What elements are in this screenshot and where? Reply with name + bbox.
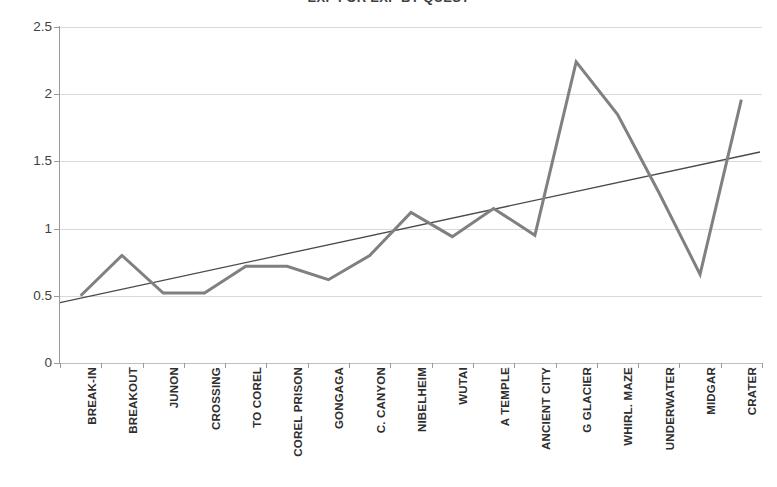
x-axis-category-label: G GLACIER	[581, 367, 593, 433]
y-axis-tick-mark	[54, 94, 60, 95]
x-axis-tick-mark	[266, 363, 267, 368]
gridline	[60, 229, 762, 230]
x-axis-category-label: COREL PRISON	[292, 367, 304, 457]
x-axis-category-label: GONGAGA	[333, 367, 345, 429]
x-axis-tick-mark	[721, 363, 722, 368]
x-axis-tick-mark	[762, 363, 763, 368]
x-axis-tick-mark	[308, 363, 309, 368]
x-axis-category-labels: BREAK-INBREAKOUTJUNONCROSSINGTO CORELCOR…	[0, 367, 777, 487]
x-axis-category-label: TO COREL	[251, 367, 263, 428]
x-axis-category-label: CRATER	[746, 367, 758, 415]
x-axis-category-label-wrapper: GONGAGA	[333, 367, 345, 429]
x-axis-tick-mark	[514, 363, 515, 368]
x-axis-category-label-wrapper: A TEMPLE	[499, 367, 511, 426]
x-axis-category-label-wrapper: UNDERWATER	[664, 367, 676, 450]
gridline	[60, 161, 762, 162]
x-axis-category-label-wrapper: G GLACIER	[581, 367, 593, 433]
x-axis-tick-mark	[432, 363, 433, 368]
x-axis-tick-mark	[60, 363, 61, 368]
y-axis-tick-mark	[54, 161, 60, 162]
x-axis-tick-mark	[473, 363, 474, 368]
chart-title: EXP FOR EXP BY QUEST	[0, 0, 777, 5]
gridline	[60, 94, 762, 95]
x-axis-category-label-wrapper: ANCIENT CITY	[540, 367, 552, 450]
x-axis-tick-mark	[143, 363, 144, 368]
y-axis-tick-mark	[54, 27, 60, 28]
x-axis-tick-mark	[349, 363, 350, 368]
x-axis-category-label-wrapper: C. CANYON	[375, 367, 387, 433]
gridline	[60, 296, 762, 297]
x-axis-tick-mark	[390, 363, 391, 368]
y-axis-tick-label: 1	[6, 221, 52, 236]
y-axis-tick-label: 0.5	[6, 288, 52, 303]
x-axis-category-label-wrapper: JUNON	[168, 367, 180, 408]
x-axis-category-label: C. CANYON	[375, 367, 387, 433]
y-axis-tick-mark	[54, 296, 60, 297]
y-axis-tick-label: 1.5	[6, 153, 52, 168]
y-axis-tick-labels: 00.511.522.5	[0, 27, 52, 363]
x-axis-category-label-wrapper: NIBELHEIM	[416, 367, 428, 432]
gridline	[60, 27, 762, 28]
x-axis-category-label: MIDGAR	[705, 367, 717, 415]
x-axis-category-label: UNDERWATER	[664, 367, 676, 450]
y-axis-tick-label: 2	[6, 86, 52, 101]
x-axis-tick-mark	[679, 363, 680, 368]
x-axis-tick-mark	[597, 363, 598, 368]
x-axis-category-label: BREAKOUT	[127, 367, 139, 434]
x-axis-category-label-wrapper: MIDGAR	[705, 367, 717, 415]
x-axis-category-label-wrapper: CRATER	[746, 367, 758, 415]
x-axis-category-label: A TEMPLE	[499, 367, 511, 426]
x-axis-category-label-wrapper: BREAK-IN	[86, 367, 98, 425]
x-axis-category-label: CROSSING	[210, 367, 222, 430]
plot-area	[60, 27, 762, 363]
x-axis-tick-mark	[556, 363, 557, 368]
x-axis-category-label: ANCIENT CITY	[540, 367, 552, 450]
x-axis-category-label-wrapper: WHIRL. MAZE	[622, 367, 634, 446]
x-axis-category-label: WHIRL. MAZE	[622, 367, 634, 446]
x-axis-tick-mark	[638, 363, 639, 368]
x-axis-category-label-wrapper: BREAKOUT	[127, 367, 139, 434]
gridline	[60, 363, 762, 364]
x-axis-category-label-wrapper: CROSSING	[210, 367, 222, 430]
x-axis-category-label-wrapper: TO COREL	[251, 367, 263, 428]
x-axis-category-label: WUTAI	[457, 367, 469, 405]
y-axis-tick-mark	[54, 229, 60, 230]
x-axis-tick-mark	[225, 363, 226, 368]
x-axis-category-label-wrapper: COREL PRISON	[292, 367, 304, 457]
x-axis-tick-mark	[184, 363, 185, 368]
chart-container: EXP FOR EXP BY QUEST 00.511.522.5 BREAK-…	[0, 0, 777, 487]
y-axis-tick-label: 2.5	[6, 19, 52, 34]
x-axis-category-label-wrapper: WUTAI	[457, 367, 469, 405]
x-axis-category-label: JUNON	[168, 367, 180, 408]
x-axis-tick-mark	[101, 363, 102, 368]
x-axis-category-label: NIBELHEIM	[416, 367, 428, 432]
x-axis-category-label: BREAK-IN	[86, 367, 98, 425]
